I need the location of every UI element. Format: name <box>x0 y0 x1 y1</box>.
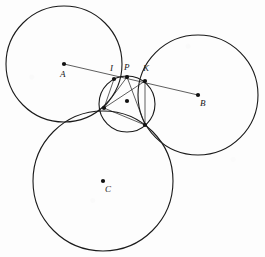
center-b-dot <box>196 93 200 97</box>
geometry-figure: A B C I P K <box>0 0 265 257</box>
point-left-dot <box>102 106 106 110</box>
label-c: C <box>105 185 111 194</box>
label-p: P <box>124 63 130 72</box>
segment-left-to-lower-right <box>104 108 145 125</box>
geometry-canvas <box>0 0 265 257</box>
label-b: B <box>200 99 206 108</box>
point-i-dot <box>112 77 116 81</box>
segment-i-to-left <box>104 79 114 108</box>
label-i: I <box>110 64 113 73</box>
label-k: K <box>143 64 149 73</box>
center-inner-dot <box>125 99 129 103</box>
center-c-dot <box>101 179 105 183</box>
segment-p-to-left <box>104 77 127 108</box>
point-k-dot <box>143 79 147 83</box>
label-a: A <box>60 70 66 79</box>
point-lower-right-dot <box>143 123 147 127</box>
segment-p-to-lower-right <box>127 77 145 125</box>
center-a-dot <box>62 62 66 66</box>
point-p-dot <box>125 75 129 79</box>
